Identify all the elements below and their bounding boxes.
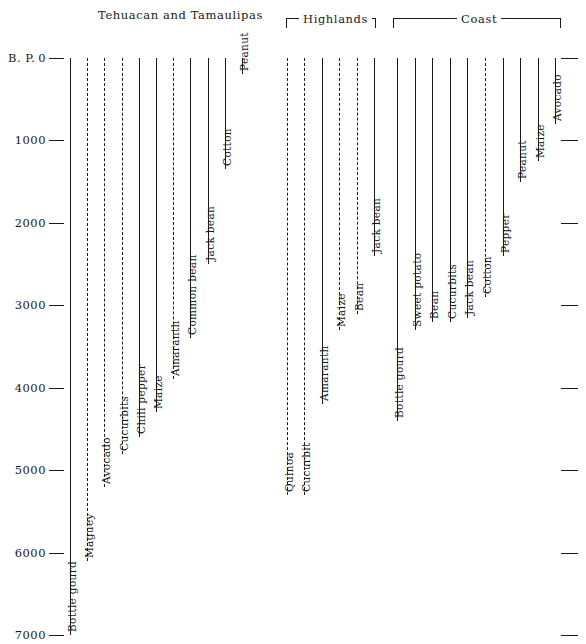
axis-tick-label-4000: 4000: [0, 381, 46, 395]
crop-label-pepper: Pepper: [500, 213, 511, 253]
crop-label-quinoa: Quinoa: [284, 452, 295, 492]
axis-tick-label-0: 0: [0, 51, 46, 65]
crop-line-avocado-tehuacan-and-tamaulipas[interactable]: [104, 58, 105, 487]
axis-tick-mark-right-2000: [561, 223, 578, 224]
crop-label-bottle-gourd: Bottle gourd: [67, 561, 78, 632]
axis-tick-mark-right-3000: [561, 305, 578, 306]
crop-line-cucurbits-tehuacan-and-tamaulipas[interactable]: [122, 58, 123, 454]
crop-label-avocado: Avocado: [101, 437, 112, 484]
crop-label-cucurbits: Cucurbits: [119, 395, 130, 450]
axis-tick-mark-right-0: [561, 58, 578, 59]
crop-line-bottle-gourd-tehuacan-and-tamaulipas[interactable]: [70, 58, 71, 635]
crop-line-bean-highlands[interactable]: [357, 58, 358, 314]
crop-label-avocado: Avocado: [552, 74, 563, 121]
axis-tick-mark-right-1000: [561, 140, 578, 141]
crop-label-peanut: Peanut: [517, 140, 528, 179]
axis-tick-mark-0: [49, 58, 64, 59]
crop-label-common-bean: Common bean: [187, 255, 198, 336]
crop-label-jack-bean: Jack bean: [205, 206, 216, 261]
axis-tick-mark-6000: [49, 553, 64, 554]
group-bracket-highlands: Highlands: [286, 18, 376, 28]
group-title-highlands: Highlands: [299, 12, 372, 26]
group-title-coast: Coast: [457, 12, 501, 26]
crop-label-jack-bean: Jack bean: [464, 259, 475, 314]
axis-tick-mark-2000: [49, 223, 64, 224]
axis-tick-mark-3000: [49, 305, 64, 306]
crop-label-maguey: Maguey: [84, 513, 95, 558]
group-title-tehuacan-tamaulipas: Tehuacan and Tamaulipas: [98, 8, 263, 22]
crop-chronology-chart: Tehuacan and Tamaulipas Highlands Coast …: [0, 0, 586, 644]
axis-tick-mark-right-4000: [561, 388, 578, 389]
axis-tick-mark-7000: [49, 635, 64, 636]
axis-tick-mark-right-6000: [561, 553, 578, 554]
axis-tick-label-2000: 2000: [0, 216, 46, 230]
crop-line-maize-tehuacan-and-tamaulipas[interactable]: [156, 58, 157, 412]
crop-line-bean-coast[interactable]: [432, 58, 433, 322]
axis-tick-mark-5000: [49, 470, 64, 471]
crop-line-maguey-tehuacan-and-tamaulipas[interactable]: [87, 58, 88, 561]
crop-label-maize: Maize: [153, 376, 164, 410]
axis-tick-mark-1000: [49, 140, 64, 141]
crop-label-maize: Maize: [535, 124, 546, 158]
crop-label-chili-pepper: Chili pepper: [136, 364, 147, 434]
crop-label-cucurbit: Cucurbit: [301, 442, 312, 492]
crop-label-amaranth: Amaranth: [319, 346, 330, 402]
axis-tick-label-1000: 1000: [0, 133, 46, 147]
crop-line-cucurbit-highlands[interactable]: [304, 58, 305, 495]
crop-label-peanut: Peanut: [239, 33, 250, 72]
crop-line-quinoa-highlands[interactable]: [287, 58, 288, 495]
crop-label-sweet-potato: Sweet potato: [412, 253, 423, 327]
crop-line-maize-highlands[interactable]: [339, 58, 340, 330]
axis-tick-mark-right-5000: [561, 470, 578, 471]
crop-label-maize: Maize: [336, 293, 347, 327]
axis-tick-mark-4000: [49, 388, 64, 389]
axis-tick-label-3000: 3000: [0, 298, 46, 312]
crop-label-jack-bean: Jack bean: [371, 198, 382, 253]
axis-tick-mark-right-7000: [561, 635, 578, 636]
crop-label-amaranth: Amaranth: [170, 321, 181, 377]
axis-tick-label-7000: 7000: [0, 628, 46, 642]
crop-label-bean: Bean: [354, 282, 365, 310]
group-bracket-coast: Coast: [393, 18, 561, 28]
crop-label-cucurbits: Cucurbits: [447, 263, 458, 318]
axis-tick-label-6000: 6000: [0, 546, 46, 560]
crop-label-bottle-gourd: Bottle gourd: [394, 347, 405, 418]
axis-tick-label-5000: 5000: [0, 463, 46, 477]
crop-label-bean: Bean: [429, 290, 440, 318]
crop-label-cotton: Cotton: [482, 256, 493, 294]
crop-label-cotton: Cotton: [222, 128, 233, 166]
